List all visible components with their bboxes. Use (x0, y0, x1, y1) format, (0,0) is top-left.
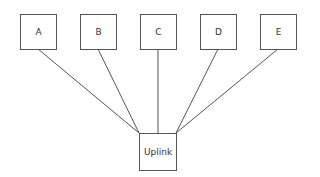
node-b-label: B (95, 27, 101, 37)
node-e-label: E (276, 27, 282, 37)
node-d-label: D (215, 27, 222, 37)
node-uplink: Uplink (139, 133, 177, 171)
edge-d-uplink (176, 49, 218, 133)
node-d: D (200, 14, 237, 50)
node-c: C (140, 14, 177, 50)
node-a: A (20, 14, 57, 50)
node-uplink-label: Uplink (144, 147, 172, 157)
node-c-label: C (155, 27, 161, 37)
edge-a-uplink (38, 49, 139, 133)
node-a-label: A (35, 27, 41, 37)
node-e: E (260, 14, 297, 50)
edge-e-uplink (176, 49, 278, 133)
node-b: B (80, 14, 117, 50)
edge-b-uplink (98, 49, 139, 133)
